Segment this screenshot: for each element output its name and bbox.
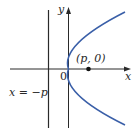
origin-label: 0 [60, 70, 67, 83]
focus-point [86, 67, 91, 72]
directrix-label: x = −p [9, 86, 48, 99]
focus-label: (p, 0) [76, 52, 106, 65]
y-axis-label: y [57, 3, 65, 16]
parabola-diagram: y x 0 (p, 0) x = −p [0, 0, 138, 137]
diagram-svg: y x 0 (p, 0) x = −p [0, 0, 138, 137]
x-axis-label: x [125, 70, 132, 83]
y-axis-arrow-icon [66, 7, 71, 14]
